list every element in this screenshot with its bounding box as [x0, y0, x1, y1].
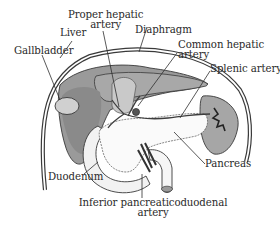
anatomy-diagram: Proper hepatic artery Liver Diaphragm Ga… — [0, 0, 280, 233]
label-liver: Liver — [60, 28, 86, 38]
gallbladder-shape — [55, 98, 79, 115]
pancreas-shape — [99, 113, 207, 172]
label-diaphragm: Diaphragm — [135, 25, 192, 35]
label-pancreas: Pancreas — [205, 159, 251, 169]
label-inferior-pancreaticoduodenal-artery-line2: artery — [78, 208, 228, 218]
label-splenic-artery: Splenic artery — [210, 64, 280, 74]
label-common-hepatic-artery-line2: artery — [178, 50, 264, 60]
label-common-hepatic-artery: Common hepatic artery — [178, 40, 264, 60]
label-duodenum: Duodenum — [48, 172, 103, 182]
label-gallbladder: Gallbladder — [14, 46, 73, 56]
label-inferior-pancreaticoduodenal-artery: Inferior pancreaticoduodenal artery — [78, 198, 228, 218]
